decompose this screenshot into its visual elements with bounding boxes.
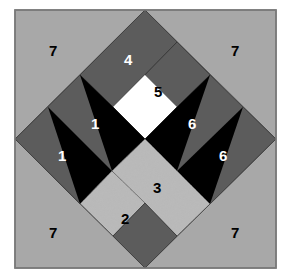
label-1-inner: 1 [91,115,99,132]
label-5: 5 [154,83,162,100]
label-3: 3 [153,179,161,196]
label-4: 4 [124,51,133,68]
label-7-tl: 7 [49,42,57,59]
label-7-bl: 7 [49,224,57,241]
label-7-tr: 7 [231,42,239,59]
label-2: 2 [121,210,129,227]
label-6-inner: 6 [188,115,196,132]
label-7-br: 7 [231,224,239,241]
quilt-diagram: 7 7 7 7 4 5 1 1 6 6 3 2 [0,0,284,279]
label-6-outer: 6 [219,147,227,164]
label-1-outer: 1 [58,147,66,164]
